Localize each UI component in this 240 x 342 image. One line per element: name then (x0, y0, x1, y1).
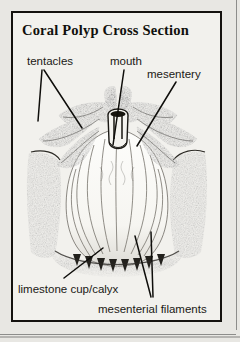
label-tentacles: tentacles (27, 55, 73, 67)
label-mesentery: mesentery (147, 68, 201, 80)
page-edge-bottom-shadow (0, 336, 240, 338)
label-mesenterial-filaments: mesenterial filaments (98, 303, 207, 315)
mouth-pharynx (108, 109, 128, 149)
page-edge-bottom (0, 334, 236, 335)
scanned-page: Coral Polyp Cross Section tentacles mout… (0, 0, 240, 342)
label-mouth: mouth (110, 55, 142, 67)
page-title: Coral Polyp Cross Section (22, 22, 189, 39)
label-limestone-cup-calyx: limestone cup/calyx (18, 283, 118, 295)
page-edge-right (236, 0, 237, 330)
